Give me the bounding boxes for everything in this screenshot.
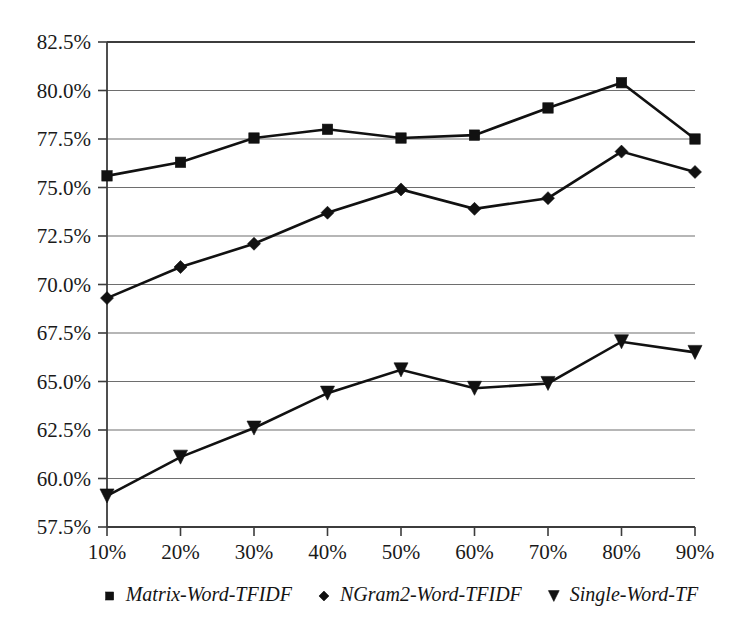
y-tick-label: 57.5%: [37, 515, 91, 539]
y-tick-label: 75.0%: [37, 176, 91, 200]
legend-diamond-icon: [319, 591, 329, 601]
square-marker: [175, 157, 185, 167]
series-1: [102, 78, 700, 182]
y-tick-label: 67.5%: [37, 321, 91, 345]
y-tick-label: 62.5%: [37, 418, 91, 442]
legend-item[interactable]: Single-Word-TF: [548, 583, 699, 606]
legend-label: NGram2-Word-TFIDF: [339, 583, 523, 605]
diamond-marker: [248, 237, 261, 250]
legend-label: Single-Word-TF: [570, 583, 699, 606]
y-tick-label: 70.0%: [37, 273, 91, 297]
line-chart: 82.5%80.0%77.5%75.0%72.5%70.0%67.5%65.0%…: [0, 0, 749, 629]
square-marker: [543, 103, 553, 113]
square-marker: [396, 133, 406, 143]
y-tick-label: 72.5%: [37, 224, 91, 248]
gridlines: [107, 42, 695, 527]
square-marker: [469, 130, 479, 140]
series-line: [107, 152, 695, 298]
x-tick-label: 50%: [382, 540, 421, 564]
x-tick-label: 70%: [529, 540, 568, 564]
y-axis-tick-labels: 82.5%80.0%77.5%75.0%72.5%70.0%67.5%65.0%…: [37, 30, 91, 539]
triangle-down-marker: [320, 386, 334, 400]
square-marker: [249, 133, 259, 143]
triangle-down-marker: [247, 421, 261, 435]
legend-item[interactable]: Matrix-Word-TFIDF: [106, 583, 293, 605]
x-axis-ticks: [107, 527, 695, 536]
diamond-marker: [101, 292, 114, 305]
x-tick-label: 20%: [161, 540, 200, 564]
chart-legend: Matrix-Word-TFIDFNGram2-Word-TFIDFSingle…: [106, 583, 699, 606]
diamond-marker: [395, 183, 408, 196]
square-marker: [616, 78, 626, 88]
series-3: [100, 335, 702, 503]
x-tick-label: 30%: [235, 540, 274, 564]
legend-item[interactable]: NGram2-Word-TFIDF: [319, 583, 523, 605]
x-tick-label: 40%: [308, 540, 347, 564]
legend-label: Matrix-Word-TFIDF: [125, 583, 293, 605]
diamond-marker: [321, 206, 334, 219]
diamond-marker: [689, 165, 702, 178]
x-tick-label: 90%: [676, 540, 715, 564]
series-2: [101, 145, 702, 304]
square-marker: [102, 171, 112, 181]
triangle-down-marker: [173, 450, 187, 464]
y-tick-label: 60.0%: [37, 467, 91, 491]
square-marker: [690, 134, 700, 144]
diamond-marker: [174, 261, 187, 274]
legend-triangle-down-icon: [548, 591, 559, 602]
x-tick-label: 80%: [602, 540, 641, 564]
y-tick-label: 77.5%: [37, 127, 91, 151]
y-tick-label: 80.0%: [37, 79, 91, 103]
legend-square-icon: [106, 592, 114, 600]
diamond-marker: [468, 202, 481, 215]
data-series: [100, 78, 702, 503]
diamond-marker: [615, 145, 628, 158]
y-tick-label: 65.0%: [37, 370, 91, 394]
y-tick-label: 82.5%: [37, 30, 91, 54]
x-tick-label: 10%: [88, 540, 127, 564]
square-marker: [322, 124, 332, 134]
diamond-marker: [542, 192, 555, 205]
x-tick-label: 60%: [455, 540, 494, 564]
triangle-down-marker: [100, 489, 114, 503]
y-axis-ticks: [98, 42, 107, 527]
chart-canvas: 82.5%80.0%77.5%75.0%72.5%70.0%67.5%65.0%…: [0, 0, 749, 629]
x-axis-tick-labels: 10%20%30%40%50%60%70%80%90%: [88, 540, 715, 564]
